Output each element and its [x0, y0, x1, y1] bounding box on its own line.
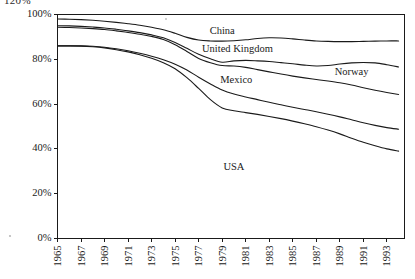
- y-tick-label: 80%: [32, 53, 52, 64]
- clipped-header-text: 120%: [4, 0, 31, 6]
- y-tick-label: 0%: [38, 232, 52, 243]
- x-tick-label: 1971: [123, 246, 134, 267]
- x-tick-label: 1989: [334, 246, 345, 267]
- x-tick-label: 1987: [311, 246, 322, 267]
- series-label-united-kingdom: United Kingdom: [202, 43, 273, 54]
- x-tick-label: 1991: [358, 246, 369, 267]
- x-tick-label: 1985: [287, 246, 298, 267]
- x-tick-label: 1983: [264, 246, 275, 267]
- y-tick-label: 20%: [32, 187, 52, 198]
- x-tick-label: 1993: [381, 246, 392, 267]
- chart-container: 120% 0%20%40%60%80%100%19651967196919711…: [0, 0, 415, 279]
- x-tick-label: 1979: [217, 246, 228, 267]
- series-label-mexico: Mexico: [220, 74, 252, 85]
- x-tick-label: 1973: [146, 246, 157, 267]
- x-tick-label: 1975: [170, 246, 181, 267]
- series-line-mexico: [58, 46, 399, 129]
- x-tick-label: 1981: [240, 246, 251, 267]
- x-tick-label: 1967: [76, 246, 87, 267]
- x-tick-label: 1965: [52, 246, 63, 267]
- scan-speck: [165, 18, 167, 20]
- y-tick-label: 60%: [32, 98, 52, 109]
- y-tick-label: 40%: [32, 142, 52, 153]
- x-tick-label: 1977: [193, 246, 204, 267]
- series-label-china: China: [210, 25, 235, 36]
- series-label-norway: Norway: [335, 66, 370, 77]
- y-tick-label: 100%: [27, 8, 52, 19]
- scan-speck: [9, 235, 11, 237]
- line-chart: 0%20%40%60%80%100%1965196719691971197319…: [0, 0, 415, 279]
- series-label-usa: USA: [223, 161, 244, 172]
- x-tick-label: 1969: [99, 246, 110, 267]
